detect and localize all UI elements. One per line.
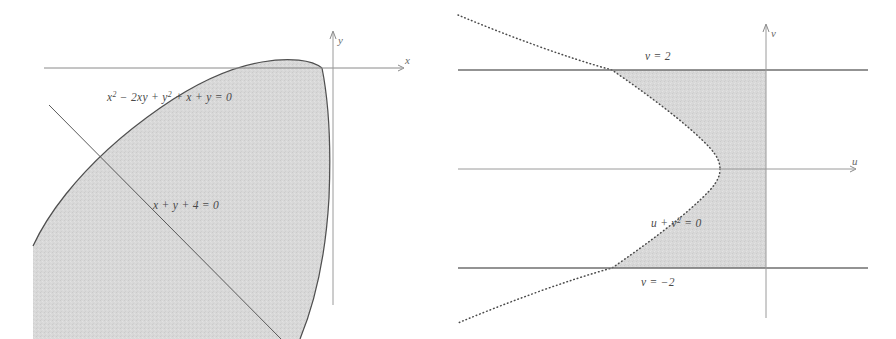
line-equation-label: x + y + 4 = 0 [152,199,219,212]
parabola-equation-label-uv: u + v2 = 0 [651,216,702,229]
v-upper-label: v = 2 [645,50,671,62]
v-axis-label: v [771,27,776,39]
u-axis-label: u [852,155,858,167]
y-axis-label: y [337,34,343,46]
v-lower-label: v = −2 [641,276,675,288]
figure-root: y x x2 − 2xy + y2 + x + y = 0 x + y + 4 … [0,0,896,339]
left-panel-xy-plane: y x x2 − 2xy + y2 + x + y = 0 x + y + 4 … [0,0,448,339]
x-axis-label: x [404,54,410,66]
right-panel-uv-plane: v u v = 2 u + v2 = 0 v = −2 [448,0,896,339]
